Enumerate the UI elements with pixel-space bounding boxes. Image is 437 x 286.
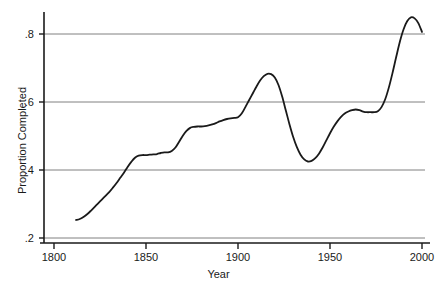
- xtick-label-1900: 1900: [210, 251, 266, 263]
- ytick-label-0.2: .2: [16, 232, 34, 244]
- xtick-label-2000: 2000: [394, 251, 437, 263]
- xtick-label-1800: 1800: [26, 251, 82, 263]
- x-tick-marks: [54, 243, 422, 249]
- xtick-label-1850: 1850: [118, 251, 174, 263]
- xtick-label-1950: 1950: [302, 251, 358, 263]
- data-series-line: [76, 17, 422, 220]
- axis-spines: [40, 12, 430, 243]
- gridlines: [44, 34, 425, 238]
- x-axis-title: Year: [0, 268, 437, 280]
- line-chart-plot: [0, 0, 437, 286]
- chart-figure: .8 .6 .4 .2 1800 1850 1900 1950 2000 Pro…: [0, 0, 437, 286]
- ytick-label-0.8: .8: [16, 28, 34, 40]
- y-axis-title: Proportion Completed: [16, 87, 28, 194]
